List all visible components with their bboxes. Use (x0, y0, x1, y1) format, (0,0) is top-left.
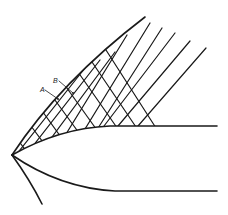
right-running-characteristics (2, 23, 206, 160)
label-a-text: A (39, 86, 45, 93)
point-a-marker (57, 98, 59, 100)
left-running-characteristics (18, 50, 156, 170)
characteristics-diagram: A B (0, 0, 228, 215)
body-lower-surface (12, 155, 217, 191)
point-b-marker (72, 92, 74, 94)
label-a: A (39, 86, 59, 100)
characteristic-mesh (2, 23, 206, 170)
body-upper-surface (12, 126, 217, 155)
shock-wave-lower (12, 155, 42, 204)
label-b-text: B (53, 77, 58, 84)
label-a-leader (45, 90, 58, 99)
